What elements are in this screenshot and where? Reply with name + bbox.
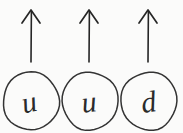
diagram-canvas: uud [0,0,183,133]
quark-spin-diagram: uud [0,0,183,133]
